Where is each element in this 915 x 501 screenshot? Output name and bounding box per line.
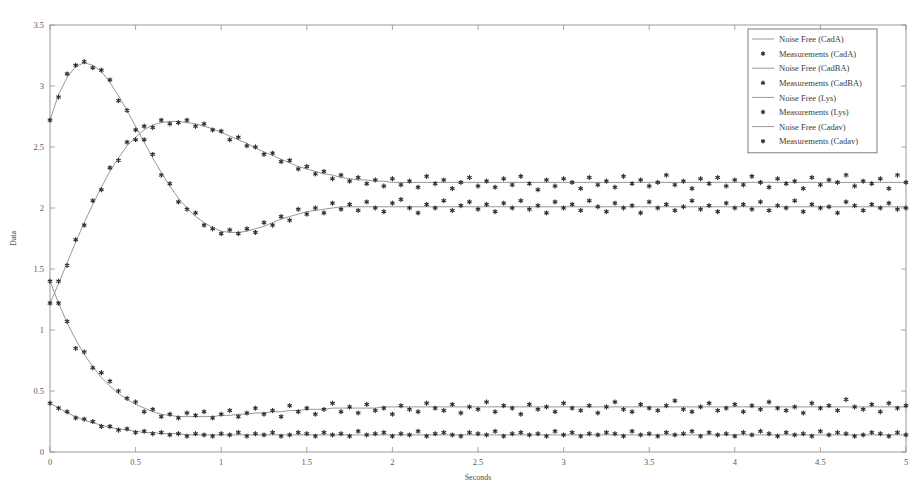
- x-tick-label: 5: [904, 457, 908, 467]
- legend-label: Measurements (Cadav): [779, 136, 858, 146]
- y-tick-label: 3.5: [33, 20, 44, 30]
- legend-label: Noise Free (Cadav): [779, 122, 846, 132]
- x-tick-label: 1: [219, 457, 223, 467]
- legend-label: Measurements (Lys): [779, 107, 849, 117]
- y-tick-label: 1.5: [33, 264, 44, 274]
- x-tick-label: 1.5: [301, 457, 312, 467]
- y-tick-label: 0.5: [33, 386, 44, 396]
- x-tick-label: 4: [733, 457, 738, 467]
- figure-container: 00.511.522.533.544.5500.511.522.533.5Sec…: [0, 0, 915, 501]
- x-axis-label: Seconds: [465, 473, 492, 482]
- x-tick-label: 0: [48, 457, 52, 467]
- legend-label: Noise Free (Lys): [779, 93, 836, 103]
- legend-label: Noise Free (CadBA): [779, 63, 850, 73]
- x-tick-label: 2: [390, 457, 394, 467]
- y-tick-label: 1: [40, 325, 44, 335]
- x-tick-label: 4.5: [815, 457, 826, 467]
- x-tick-label: 3: [561, 457, 565, 467]
- y-tick-label: 0: [40, 447, 44, 457]
- legend-box: [748, 29, 877, 153]
- legend-label: Noise Free (CadA): [779, 34, 844, 44]
- y-axis-label: Data: [9, 231, 18, 247]
- legend-label: Measurements (CadBA): [779, 78, 862, 88]
- line-chart: 00.511.522.533.544.5500.511.522.533.5Sec…: [0, 0, 915, 501]
- chart-canvas: 00.511.522.533.544.5500.511.522.533.5Sec…: [0, 0, 915, 501]
- y-tick-label: 2.5: [33, 142, 44, 152]
- y-tick-label: 3: [40, 81, 44, 91]
- y-tick-label: 2: [40, 203, 44, 213]
- legend: Noise Free (CadA)Measurements (CadA)Nois…: [748, 29, 877, 153]
- x-tick-label: 3.5: [644, 457, 655, 467]
- x-tick-label: 0.5: [130, 457, 141, 467]
- legend-label: Measurements (CadA): [779, 49, 856, 59]
- x-tick-label: 2.5: [473, 457, 484, 467]
